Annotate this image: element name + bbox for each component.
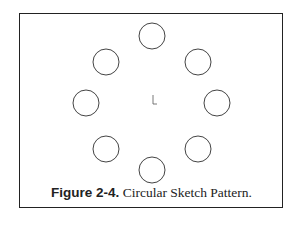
figure-caption: Figure 2-4. Circular Sketch Pattern. (19, 185, 284, 201)
pattern-circle-bottom (139, 157, 165, 183)
pattern-circle-lower-left (93, 136, 119, 162)
caption-label: Figure 2-4. (51, 185, 119, 200)
pattern-circle-left (73, 90, 99, 116)
pattern-circle-upper-left (93, 49, 119, 75)
pattern-circle-lower-right (185, 136, 211, 162)
pattern-circle-right (204, 90, 230, 116)
pattern-circle-top (139, 23, 165, 49)
pattern-circle-upper-right (185, 49, 211, 75)
origin-axis-icon (153, 95, 157, 104)
caption-text: Circular Sketch Pattern. (119, 185, 252, 200)
